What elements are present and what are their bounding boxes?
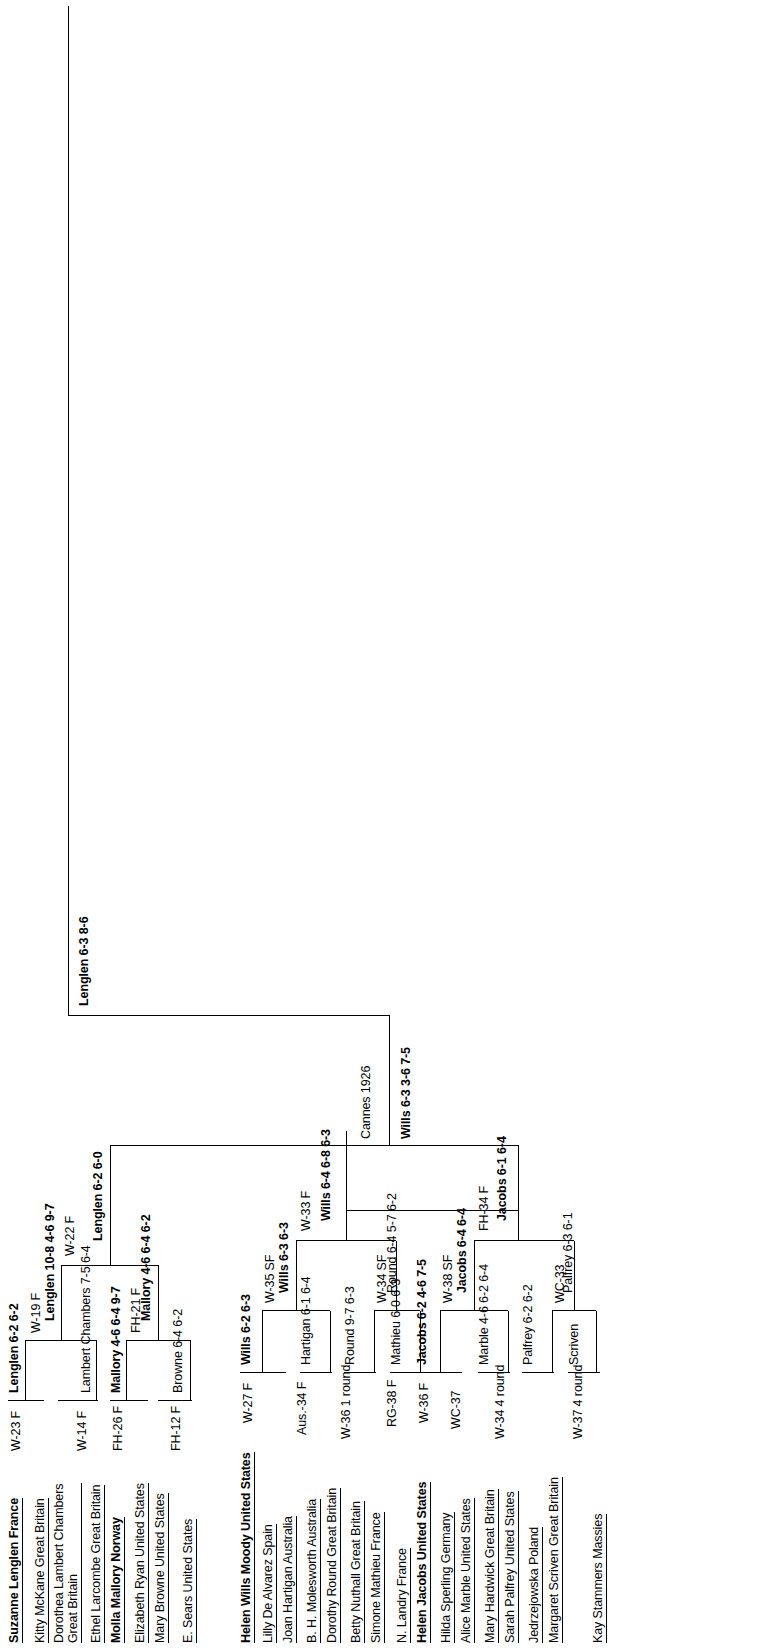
result-wills-62-63: Wills 6-2 6-3 — [240, 1294, 253, 1365]
connector-r2-b-out — [96, 1341, 97, 1401]
player-mathieu: Simone Mathieu France — [370, 1512, 385, 1643]
player-seed-wills: Helen Wills Moody United States — [240, 1452, 255, 1643]
connector-r2-d — [158, 1400, 192, 1401]
connector-r2-b — [58, 1400, 98, 1401]
result-lenglen-62-62: Lenglen 6-2 6-2 — [8, 1304, 21, 1394]
bracket-b-r4-a-out — [346, 1131, 347, 1241]
result-lambert-chambers: Lambert Chambers 7-5 6-4 — [80, 1245, 93, 1393]
match-tag-w35sf: W-35 SF — [264, 1255, 277, 1303]
bracket-b-r4-b — [474, 1240, 574, 1241]
match-tag-rg38f: RG-38 F — [386, 1380, 399, 1427]
result-marble-46-62-64: Marble 4-6 6-2 6-4 — [478, 1264, 491, 1365]
bracket-r4-top-out — [110, 1146, 111, 1266]
result-wills-63-63: Wills 6-3 6-3 — [278, 1222, 291, 1293]
match-tag-aus34f: Aus.-34 F — [296, 1382, 309, 1435]
match-tag-w33f: W-33 F — [300, 1191, 313, 1231]
result-round-64-57-62: Round 6-4 5-7 6-2 — [386, 1193, 399, 1293]
player-lambert-chambers: Dorothea Lambert Chambers Great Britain — [52, 1483, 82, 1643]
bracket-b-r5 — [346, 1210, 518, 1211]
connector-r2-c-out — [126, 1341, 127, 1401]
connector-r2-a-out — [25, 1341, 26, 1401]
player-seed-jacobs: Helen Jacobs United States — [416, 1482, 431, 1643]
connector-b-r2-c — [344, 1372, 376, 1373]
match-tag-w36f: W-36 F — [418, 1383, 431, 1423]
connector-b-r2-e — [416, 1372, 462, 1373]
player-mckane: Kitty McKane Great Britain — [34, 1498, 49, 1643]
result-browne-64-62: Browne 6-4 6-2 — [172, 1309, 185, 1393]
player-nuthall: Betty Nuthall Great Britain — [350, 1501, 365, 1643]
connector-b-r2-c-out — [374, 1311, 375, 1373]
player-dorothy-round: Dorothy Round Great Britain — [326, 1488, 341, 1643]
final-spine — [389, 1016, 390, 1146]
player-larcombe: Ethel Larcombe Great Britain — [90, 1485, 105, 1643]
tournament-bracket: Suzanne Lenglen France W-23 F Kitty McKa… — [0, 0, 779, 1651]
bracket-final-top — [110, 1145, 390, 1146]
result-jacobs-61-64: Jacobs 6-1 6-4 — [496, 1136, 509, 1221]
bracket-r5-out — [518, 1146, 519, 1211]
match-tag-fh34f: FH-34 F — [478, 1186, 491, 1231]
result-wills-64-68-63: Wills 6-4 6-8 6-3 — [320, 1129, 333, 1221]
connector-b-r2-e-out — [440, 1311, 441, 1373]
result-jacobs-64-64: Jacobs 6-4 6-4 — [456, 1208, 469, 1293]
match-tag-w27f: W-27 F — [242, 1383, 255, 1423]
player-palfrey: Sarah Palfrey United States — [504, 1491, 519, 1643]
result-hartigan-61-64: Hartigan 6-1 6-4 — [300, 1276, 313, 1365]
venue-note-cannes: Cannes 1926 — [360, 1066, 373, 1139]
player-marble: Alice Marble United States — [460, 1498, 475, 1643]
connector-r2-c — [110, 1400, 148, 1401]
player-hardwick: Mary Hardwick Great Britain — [484, 1489, 499, 1643]
connector-b-r2-f — [478, 1372, 510, 1373]
match-tag-fh26f: FH-26 F — [112, 1406, 125, 1451]
result-mallory-46-64-97: Mallory 4-6 6-4 9-7 — [110, 1287, 123, 1393]
player-landry: N. Landry France — [396, 1548, 411, 1643]
connector-b-r2-b-out — [330, 1311, 331, 1373]
result-palfrey-62-62: Palfrey 6-2 6-2 — [522, 1285, 535, 1365]
connector-b-r2-b — [300, 1372, 332, 1373]
player-seed-lenglen: Suzanne Lenglen France — [8, 1498, 23, 1643]
player-molesworth: B. H. Molesworth Australia — [306, 1499, 321, 1643]
player-browne: Mary Browne United States — [154, 1493, 169, 1643]
player-hartigan: Joan Hartigan Australia — [282, 1516, 297, 1643]
connector-b-r2-f-out — [508, 1311, 509, 1373]
connector-b-r2-h-out — [596, 1311, 597, 1373]
player-de-alvarez: Lilly De Alvarez Spain — [262, 1524, 277, 1643]
bracket-r3-bot-out — [158, 1266, 159, 1341]
match-tag-w22f: W-22 F — [64, 1216, 77, 1256]
player-ryan: Elizabeth Ryan United States — [134, 1483, 149, 1643]
match-tag-w37-4round: W-37 4 round — [572, 1365, 585, 1439]
result-lenglen-108-46-97: Lenglen 10-8 4-6 9-7 — [44, 1204, 57, 1322]
champion-riser — [68, 1015, 390, 1016]
match-tag-fh12f: FH-12 F — [170, 1406, 183, 1451]
player-sperling: Hilda Sperling Germany — [440, 1513, 455, 1644]
match-tag-w23f: W-23 F — [10, 1411, 23, 1451]
bracket-b-r3-c-out — [474, 1241, 475, 1311]
connector-b-r2-a-out — [262, 1311, 263, 1373]
match-tag-wc37: WC-37 — [450, 1391, 463, 1429]
result-lenglen-62-60: Lenglen 6-2 6-0 — [92, 1152, 105, 1242]
champion-result: Lenglen 6-3 8-6 — [78, 917, 91, 1007]
bracket-b-r3-a-out — [296, 1241, 297, 1311]
player-stammers: Kay Stammers Massies — [592, 1514, 607, 1643]
result-round-97-63: Round 9-7 6-3 — [344, 1286, 357, 1365]
connector-b-r2-g-out — [552, 1311, 553, 1373]
connector-r2-d-out — [190, 1341, 191, 1401]
bracket-rotator: Suzanne Lenglen France W-23 F Kitty McKa… — [0, 0, 779, 1651]
result-wills-63-36-75: Wills 6-3 3-6 7-5 — [400, 1047, 413, 1139]
match-tag-w14f: W-14 F — [76, 1411, 89, 1451]
player-scriven: Margaret Scriven Great Britain — [548, 1477, 563, 1643]
champion-line — [68, 6, 69, 1016]
result-jacobs-62-46-75: Jacobs 6-2 4-6 7-5 — [416, 1259, 429, 1365]
result-mallory-46-64-62: Mallory 4-6 6-4 6-2 — [140, 1215, 153, 1321]
bracket-b-r4-b-out — [518, 1211, 519, 1241]
result-palfrey-63-61: Palfrey 6-3 6-1 — [562, 1213, 575, 1293]
bracket-r3-top-out — [61, 1266, 62, 1341]
connector-b-r2-g — [522, 1372, 554, 1373]
player-seed-mallory: Molla Mallory Norway — [110, 1517, 125, 1643]
match-tag-w19f: W-19 F — [30, 1293, 43, 1333]
match-tag-w36-1round: W-36 1 round — [340, 1365, 353, 1439]
result-scriven: Scriven — [568, 1324, 581, 1365]
player-jedrzejowska: Jedrzejowska Poland — [528, 1527, 543, 1643]
match-tag-w38sf: W-38 SF — [442, 1255, 455, 1303]
player-sears: E. Sears United States — [182, 1519, 197, 1643]
match-tag-w34-4round: W-34 4 round — [494, 1365, 507, 1439]
